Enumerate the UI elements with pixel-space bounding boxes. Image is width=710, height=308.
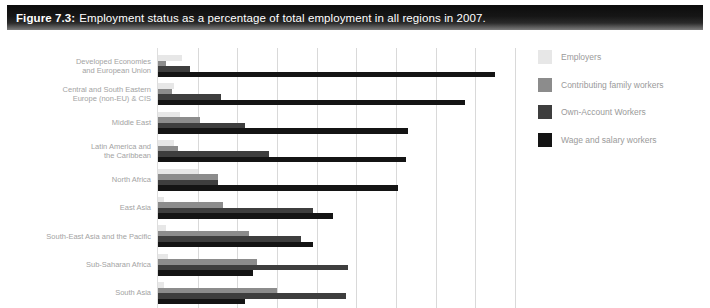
bar-wage-and-salary-workers <box>158 213 333 219</box>
gridline-90 <box>515 48 516 308</box>
bar-wage-and-salary-workers <box>158 72 495 78</box>
bar-group <box>158 197 515 219</box>
bar-group <box>158 169 515 191</box>
bar-wage-and-salary-workers <box>158 270 253 276</box>
legend-swatch <box>538 133 552 147</box>
bar-groups <box>158 48 515 304</box>
category-label: Latin America and the Caribbean <box>0 140 157 162</box>
bar-group <box>158 112 515 134</box>
figure-title: Figure 7.3:Employment status as a percen… <box>7 12 486 24</box>
bar-wage-and-salary-workers <box>158 299 245 305</box>
legend-label: Employers <box>561 52 601 62</box>
legend-item: Wage and salary workers <box>538 133 708 147</box>
category-label: Sub-Saharan Africa <box>0 254 157 276</box>
category-label: South Asia <box>0 282 157 304</box>
category-labels: Developed Economies and European UnionCe… <box>0 48 157 308</box>
figure-header: Figure 7.3:Employment status as a percen… <box>7 5 703 30</box>
category-label: South-East Asia and the Pacific <box>0 225 157 247</box>
legend-label: Wage and salary workers <box>561 135 657 145</box>
bar-group <box>158 225 515 247</box>
legend: EmployersContributing family workersOwn-… <box>538 50 708 160</box>
bar-wage-and-salary-workers <box>158 157 406 163</box>
bar-group <box>158 83 515 105</box>
bar-wage-and-salary-workers <box>158 185 398 191</box>
legend-swatch <box>538 78 552 92</box>
legend-label: Contributing family workers <box>561 80 664 90</box>
plot-area <box>157 48 515 308</box>
legend-label: Own-Account Workers <box>561 107 646 117</box>
bar-wage-and-salary-workers <box>158 128 408 134</box>
category-label: Central and South Eastern Europe (non-EU… <box>0 83 157 105</box>
bar-wage-and-salary-workers <box>158 100 465 106</box>
bar-group <box>158 254 515 276</box>
bar-group <box>158 282 515 304</box>
bar-wage-and-salary-workers <box>158 242 313 248</box>
legend-item: Employers <box>538 50 708 64</box>
figure-label: Figure 7.3: <box>16 12 75 24</box>
legend-swatch <box>538 105 552 119</box>
category-label: North Africa <box>0 169 157 191</box>
legend-swatch <box>538 50 552 64</box>
category-label: Developed Economies and European Union <box>0 55 157 77</box>
figure-title-text: Employment status as a percentage of tot… <box>79 12 486 24</box>
category-label: Middle East <box>0 112 157 134</box>
legend-item: Contributing family workers <box>538 78 708 92</box>
category-label: East Asia <box>0 197 157 219</box>
bar-group <box>158 140 515 162</box>
bar-group <box>158 55 515 77</box>
legend-item: Own-Account Workers <box>538 105 708 119</box>
